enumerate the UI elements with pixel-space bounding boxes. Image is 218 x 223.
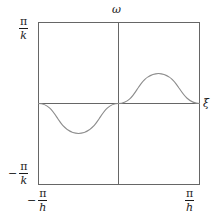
y-tick-bottom-numerator: π xyxy=(19,161,28,172)
horizontal-axis-label-xi: ξ xyxy=(203,98,209,109)
y-axis-tick-label-bottom: − π k xyxy=(8,161,28,186)
y-tick-bottom-fraction: π k xyxy=(19,161,28,186)
y-tick-bottom-denominator: k xyxy=(20,175,29,186)
x-tick-right-numerator: π xyxy=(185,188,194,199)
x-tick-left-denominator: h xyxy=(38,202,47,213)
x-tick-left-fraction: π h xyxy=(38,188,47,213)
x-tick-left-numerator: π xyxy=(38,188,47,199)
x-tick-right-denominator: h xyxy=(185,202,194,213)
x-axis-tick-label-right: π h xyxy=(185,188,194,213)
x-axis-tick-label-left: − π h xyxy=(27,188,47,213)
y-tick-top-denominator: k xyxy=(19,30,28,41)
vertical-axis-label-omega: ω xyxy=(112,4,121,15)
y-axis-tick-label-top: π k xyxy=(19,16,28,41)
minus-sign: − xyxy=(8,168,17,179)
minus-sign: − xyxy=(27,195,36,206)
y-tick-top-numerator: π xyxy=(19,16,28,27)
